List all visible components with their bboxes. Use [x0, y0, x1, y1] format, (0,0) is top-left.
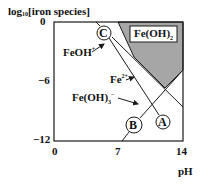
fe2-plus-label: Fe2+	[110, 73, 128, 85]
marker-b-label: B	[129, 118, 137, 133]
feoh3-arrow-icon	[118, 98, 138, 104]
feoh-plus-label: FeOH+	[63, 46, 95, 58]
fe-oh3-minus-label: Fe(OH)3−	[72, 91, 114, 105]
fe-oh2-region-label: Fe(OH)2	[134, 27, 173, 41]
line-b-lower	[122, 132, 129, 141]
marker-c-label: C	[99, 26, 108, 41]
marker-a-label: A	[158, 115, 167, 130]
